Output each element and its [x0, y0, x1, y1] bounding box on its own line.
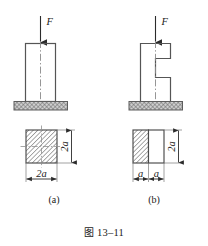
panel-a-section: 2a 2a — [21, 126, 76, 183]
load-label-b: F — [161, 16, 169, 27]
panel-a-elevation: F — [14, 16, 68, 111]
panel-label-a: (a) — [34, 194, 74, 205]
figure-caption-prefix: 图 — [84, 227, 94, 238]
figure-canvas: F 2a 2a F — [0, 0, 208, 246]
dim-label-h-a: 2a — [36, 168, 47, 179]
section-open-half-b — [149, 130, 165, 163]
dim-label-v-a: 2a — [59, 141, 70, 152]
figure-caption-number: 13–11 — [97, 227, 124, 238]
ground-base-a — [14, 102, 68, 111]
dim-label-h-b-right: a — [154, 168, 159, 179]
load-label-a: F — [46, 16, 54, 27]
ground-base-b — [129, 102, 183, 111]
dim-label-h-b-left: a — [138, 168, 143, 179]
figure-caption: 图 13–11 — [0, 224, 208, 239]
section-hatched-half-b — [133, 130, 149, 163]
panel-b-section: 2a a a — [133, 130, 182, 182]
panel-b-elevation: F — [129, 16, 183, 111]
figure-root: F 2a 2a F — [0, 0, 208, 246]
dim-label-v-b: 2a — [166, 141, 177, 152]
panel-label-b: (b) — [134, 194, 174, 205]
section-shape-a — [26, 130, 57, 163]
